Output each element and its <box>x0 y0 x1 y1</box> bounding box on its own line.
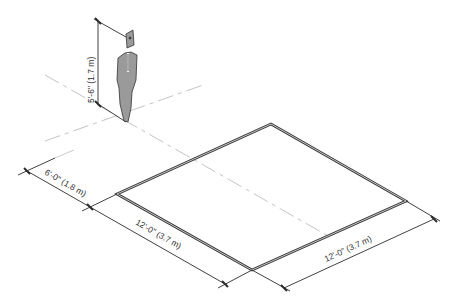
floor-square <box>117 124 406 270</box>
diagram-canvas: 6'-0" (1.8 m) 12'-0" (3.7 m) 12'-0" (3.7… <box>0 0 454 304</box>
height-dimension-label: 5'-6" (1.7 m) <box>86 57 96 103</box>
width-left-dimension <box>90 207 252 288</box>
offset-dimension-label: 6'-0" (1.8 m) <box>43 167 88 199</box>
person-figure-icon <box>117 30 137 122</box>
width-right-dimension-label: 12'-0" (3.7 m) <box>323 234 374 264</box>
figure-body <box>117 52 137 122</box>
